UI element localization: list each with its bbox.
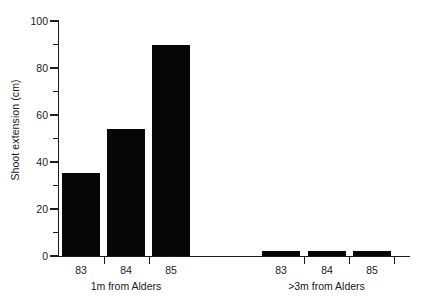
- x-axis-line: [58, 256, 410, 257]
- bar: [152, 45, 190, 257]
- x-tick-label: 84: [321, 264, 333, 276]
- y-axis-title: Shoot extension (cm): [2, 0, 28, 260]
- y-tick-label: 20: [24, 203, 48, 215]
- bar: [262, 251, 300, 256]
- y-tick-major: [50, 208, 59, 209]
- y-tick-label: 80: [24, 62, 48, 74]
- y-tick-major: [50, 20, 59, 21]
- y-tick-label: 100: [24, 15, 48, 27]
- y-tick-label: 60: [24, 109, 48, 121]
- y-tick-minor: [53, 44, 59, 45]
- x-tick-label: 85: [165, 264, 177, 276]
- y-tick-minor: [53, 232, 59, 233]
- x-tick: [349, 257, 350, 264]
- y-axis-title-text: Shoot extension (cm): [9, 79, 21, 180]
- x-tick-label: 84: [120, 264, 132, 276]
- y-tick-minor: [53, 138, 59, 139]
- x-axis-group-label: 1m from Alders: [91, 280, 162, 292]
- y-tick-minor: [53, 91, 59, 92]
- x-tick-label: 85: [366, 264, 378, 276]
- x-axis-group-label: >3m from Alders: [288, 280, 365, 292]
- y-tick-major: [50, 161, 59, 162]
- x-tick: [394, 257, 395, 264]
- x-tick-label: 83: [75, 264, 87, 276]
- bar: [62, 173, 100, 256]
- y-tick-minor: [53, 185, 59, 186]
- y-tick-label: 0: [24, 250, 48, 262]
- y-tick-label: 40: [24, 156, 48, 168]
- x-tick: [149, 257, 150, 264]
- bar: [353, 251, 391, 256]
- y-tick-major: [50, 67, 59, 68]
- bar-chart-figure: Shoot extension (cm) 020406080100 838485…: [0, 0, 424, 299]
- x-tick: [104, 257, 105, 264]
- bar: [308, 251, 346, 256]
- bar: [107, 129, 145, 256]
- x-tick-label: 83: [275, 264, 287, 276]
- y-tick-major: [50, 114, 59, 115]
- x-tick: [304, 257, 305, 264]
